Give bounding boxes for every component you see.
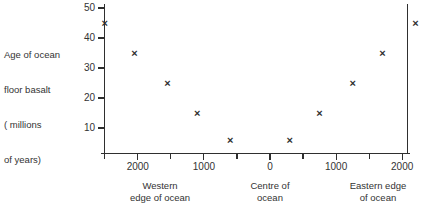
x-axis-minor-tick	[369, 154, 370, 159]
x-axis-tick-label: 1000	[316, 161, 356, 172]
y-axis-tick	[98, 97, 104, 98]
y-axis-label: Age of ocean floor basalt ( millions of …	[4, 26, 74, 188]
y-axis-tick-label: 40	[73, 32, 95, 43]
y-axis-tick-label: 10	[73, 122, 95, 133]
x-axis-tick	[402, 154, 403, 160]
x-axis-minor-tick	[236, 154, 237, 159]
x-axis-tick	[203, 154, 204, 160]
y-axis-tick-label: 50	[73, 2, 95, 13]
x-axis-tick	[269, 154, 270, 160]
data-point-marker	[285, 136, 294, 145]
x-category-western-line-2: edge of ocean	[105, 192, 215, 204]
data-point-marker	[348, 79, 357, 88]
y-axis-tick	[98, 37, 104, 38]
x-axis-tick	[137, 154, 138, 160]
data-point-marker	[130, 49, 139, 58]
y-axis-tick	[98, 67, 104, 68]
x-category-eastern: Eastern edge of ocean	[323, 180, 423, 203]
x-axis-tick-label: 0	[250, 161, 290, 172]
x-category-eastern-line-1: Eastern edge	[323, 180, 423, 192]
y-axis-tick	[98, 127, 104, 128]
x-axis-tick-label: 2000	[118, 161, 158, 172]
x-axis-line	[101, 153, 410, 154]
data-point-marker	[163, 79, 172, 88]
data-point-marker	[411, 19, 420, 28]
y-axis-tick-label: 30	[73, 62, 95, 73]
y-axis-tick-label: 20	[73, 92, 95, 103]
data-point-marker	[315, 109, 324, 118]
data-point-marker	[226, 136, 235, 145]
y-axis-label-line-1: Age of ocean	[4, 49, 74, 61]
x-axis-tick-label: 1000	[184, 161, 224, 172]
right-axis-line	[407, 4, 408, 154]
x-category-eastern-line-2: of ocean	[323, 192, 423, 204]
x-axis-minor-tick	[104, 154, 105, 159]
data-point-marker	[378, 49, 387, 58]
data-point-marker	[193, 109, 202, 118]
x-axis-tick-label: 2000	[382, 161, 422, 172]
x-category-centre: Centre of ocean	[215, 180, 325, 203]
y-axis-label-line-4: of years)	[4, 154, 74, 166]
x-category-western-line-1: Western	[105, 180, 215, 192]
x-category-centre-line-1: Centre of	[215, 180, 325, 192]
x-category-centre-line-2: ocean	[215, 192, 325, 204]
y-axis-tick	[98, 7, 104, 8]
x-axis-minor-tick	[170, 154, 171, 159]
data-point-marker	[100, 19, 109, 28]
x-category-western: Western edge of ocean	[105, 180, 215, 203]
x-axis-tick	[336, 154, 337, 160]
x-axis-minor-tick	[302, 154, 303, 159]
y-axis-label-line-2: floor basalt	[4, 84, 74, 96]
y-axis-label-line-3: ( millions	[4, 119, 74, 131]
